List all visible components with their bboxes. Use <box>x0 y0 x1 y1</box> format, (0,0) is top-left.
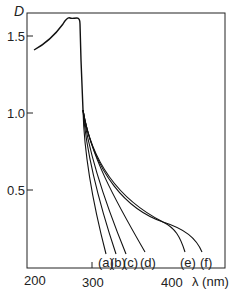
curve-label-c: (c) <box>123 256 138 269</box>
curve-common <box>34 18 83 110</box>
y-tick-label-1.0: 1.0 <box>7 107 25 120</box>
x-axis-label: λ (nm) <box>192 275 229 288</box>
curve-e <box>83 110 185 252</box>
x-tick-label-300: 300 <box>82 276 104 289</box>
y-axis-label: D <box>14 4 24 18</box>
plot-frame <box>27 13 225 268</box>
curve-label-f: (f) <box>200 256 212 269</box>
absorption-chart <box>0 0 234 294</box>
curve-f <box>83 110 202 252</box>
y-tick-label-1.5: 1.5 <box>7 30 25 43</box>
curve-label-d: (d) <box>140 256 156 269</box>
curve-d <box>83 110 145 252</box>
curve-label-e: (e) <box>180 256 196 269</box>
x-tick-label-400: 400 <box>161 276 183 289</box>
y-tick-label-0.5: 0.5 <box>7 184 25 197</box>
x-tick-label-200: 200 <box>24 274 46 287</box>
curve-c <box>83 110 126 254</box>
